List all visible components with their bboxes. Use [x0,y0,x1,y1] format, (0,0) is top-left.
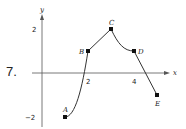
point-label-b: B [78,48,84,56]
point-a [63,115,67,119]
point-label-c: C [109,19,115,27]
x-axis [32,71,170,75]
point-label-d: D [137,48,144,56]
y-axis-label: y [39,6,45,14]
x-axis-arrow-icon [164,71,170,75]
point-e [155,93,159,97]
y-tick-2: 2 [32,26,36,34]
point-b [86,49,90,53]
function-graph: x y 2 4 2 −2 A B C D E [0,0,186,129]
x-tick-4: 4 [132,78,137,86]
point-c [109,27,113,31]
point-d [132,49,136,53]
segment-a-b [65,51,88,117]
x-axis-label: x [173,69,177,77]
y-tick-neg2: −2 [25,114,35,122]
segment-b-c [88,29,111,51]
y-axis-arrow-icon [40,14,44,20]
x-tick-2: 2 [86,78,90,86]
point-label-a: A [62,106,68,114]
y-axis [40,14,44,127]
point-label-e: E [154,100,160,108]
segment-c-d [111,29,134,51]
